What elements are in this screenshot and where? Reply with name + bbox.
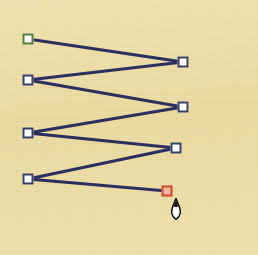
drawing-canvas[interactable] [0, 0, 258, 255]
vertex-handle-p2[interactable] [178, 57, 189, 68]
vertex-handle-p5[interactable] [23, 128, 34, 139]
vertex-handle-p7[interactable] [23, 174, 34, 185]
vertex-handle-p3[interactable] [23, 75, 34, 86]
vertex-handle-p8[interactable] [162, 186, 173, 197]
paper-background [0, 0, 258, 255]
vertex-handle-p1[interactable] [23, 34, 34, 45]
vertex-handle-p4[interactable] [178, 102, 189, 113]
vertex-handle-p6[interactable] [171, 143, 182, 154]
